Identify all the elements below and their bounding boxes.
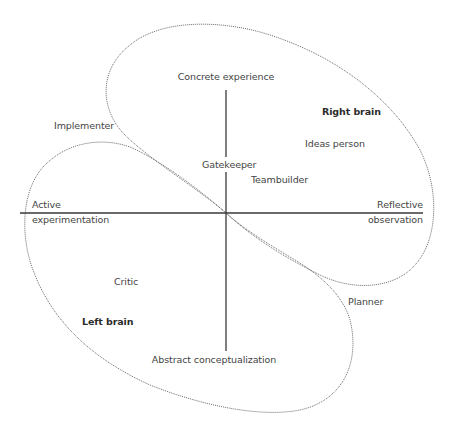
axis-label-reflective: Reflective xyxy=(377,199,423,210)
axis-label-abstract-conceptualization: Abstract conceptualization xyxy=(152,354,276,365)
role-label-critic: Critic xyxy=(114,276,138,287)
axis-label-experimentation: experimentation xyxy=(32,214,109,225)
right-brain-outline xyxy=(106,24,434,285)
axis-label-concrete-experience: Concrete experience xyxy=(178,71,275,82)
role-label-teambuilder: Teambuilder xyxy=(251,174,308,185)
axis-label-observation: observation xyxy=(368,214,423,225)
region-label-left-brain: Left brain xyxy=(82,316,133,327)
axis-label-active: Active xyxy=(32,199,61,210)
role-label-gatekeeper: Gatekeeper xyxy=(202,159,256,170)
region-label-right-brain: Right brain xyxy=(322,106,381,117)
role-label-planner: Planner xyxy=(348,296,383,307)
role-label-implementer: Implementer xyxy=(54,120,114,131)
role-label-ideas-person: Ideas person xyxy=(305,138,365,149)
